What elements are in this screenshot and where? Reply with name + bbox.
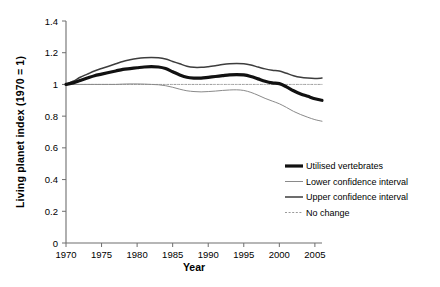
- legend-label: Utilised vertebrates: [306, 161, 384, 171]
- y-tick-label: 0: [53, 238, 58, 249]
- x-axis-ticks: 19701975198019851990199520002005: [55, 243, 325, 260]
- x-tick-label: 2000: [269, 249, 290, 260]
- x-tick-label: 2005: [304, 249, 325, 260]
- y-tick-label: 1.4: [45, 16, 58, 27]
- figure-container: Living planet index (1970 = 1) 00.20.40.…: [0, 0, 440, 287]
- x-tick-label: 1985: [162, 249, 183, 260]
- series-line: [66, 57, 322, 84]
- y-tick-label: 0.8: [45, 111, 58, 122]
- x-tick-label: 1970: [55, 249, 76, 260]
- chart-svg: Living planet index (1970 = 1) 00.20.40.…: [0, 0, 440, 287]
- y-tick-label: 0.2: [45, 206, 58, 217]
- data-series-layer: [66, 57, 322, 121]
- y-axis-ticks: 00.20.40.60.811.21.4: [45, 16, 66, 249]
- legend-label: Upper confidence interval: [306, 192, 408, 202]
- y-tick-label: 1: [53, 79, 58, 90]
- y-axis-title-text: Living planet index (1970 = 1): [14, 56, 26, 208]
- y-tick-label: 0.4: [45, 174, 58, 185]
- x-tick-label: 1975: [91, 249, 112, 260]
- legend-label: Lower confidence interval: [306, 177, 408, 187]
- x-tick-label: 1980: [127, 249, 148, 260]
- chart-legend: Utilised vertebratesLower confidence int…: [285, 161, 408, 218]
- x-axis-title-text: Year: [183, 261, 205, 273]
- x-tick-label: 1990: [198, 249, 219, 260]
- y-axis-title: Living planet index (1970 = 1): [14, 56, 26, 208]
- y-tick-label: 0.6: [45, 142, 58, 153]
- legend-label: No change: [306, 208, 350, 218]
- series-line: [66, 84, 322, 121]
- x-tick-label: 1995: [233, 249, 254, 260]
- y-tick-label: 1.2: [45, 47, 58, 58]
